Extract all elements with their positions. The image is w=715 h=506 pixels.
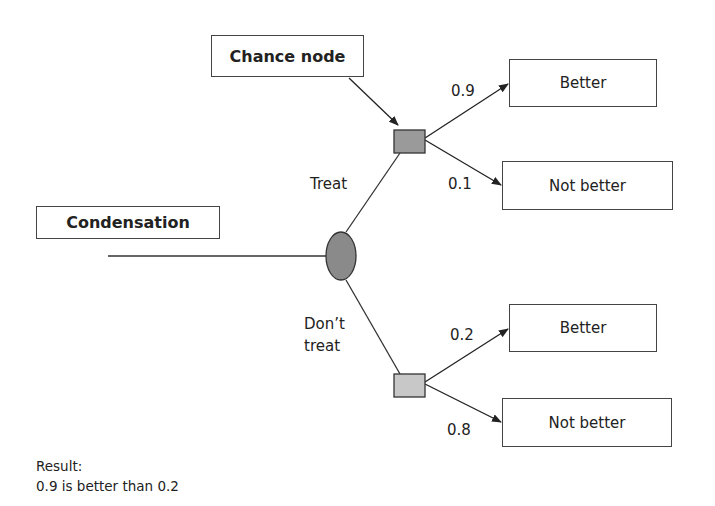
- arrow-0.8: [425, 384, 501, 422]
- outcome-box-treat-not-better: Not better: [502, 161, 673, 210]
- branch-label-treat: Treat: [310, 173, 347, 195]
- chance-node-bottom: [394, 374, 425, 397]
- result-heading: Result:: [36, 456, 179, 476]
- result-text: 0.9 is better than 0.2: [36, 476, 179, 496]
- treat-branch-line: [346, 153, 400, 232]
- probability-0.9: 0.9: [451, 80, 475, 102]
- decision-callout: Condensation: [36, 206, 220, 239]
- branch-label-dont-treat: Don’t treat: [304, 313, 345, 357]
- result-block: Result: 0.9 is better than 0.2: [36, 456, 179, 496]
- probability-0.1: 0.1: [448, 173, 472, 195]
- probability-0.8: 0.8: [447, 419, 471, 441]
- chance-node-top: [394, 130, 425, 153]
- outcome-box-dont-treat-better: Better: [509, 304, 657, 352]
- outcome-box-treat-better: Better: [509, 59, 657, 107]
- callout-arrow: [349, 78, 398, 125]
- outcome-box-dont-treat-not-better: Not better: [502, 398, 672, 447]
- dont-treat-branch-line: [346, 280, 400, 374]
- decision-node: [326, 232, 356, 280]
- probability-0.2: 0.2: [450, 324, 474, 346]
- chance-node-callout: Chance node: [211, 35, 364, 77]
